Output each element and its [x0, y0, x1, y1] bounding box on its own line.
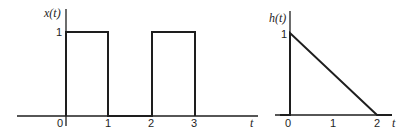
y-label-right: h(t) — [269, 11, 286, 25]
x-label-left: t — [250, 116, 254, 130]
x-tick-0-left: 0 — [57, 117, 63, 129]
x-tick-3-left: 3 — [191, 117, 197, 129]
pulse-train-signal — [66, 32, 195, 116]
x-tick-1-right: 1 — [330, 117, 336, 129]
y-tick-1-right: 1 — [281, 28, 287, 40]
y-label-left: x(t) — [43, 6, 61, 20]
x-tick-0-right: 0 — [285, 117, 291, 129]
y-tick-1-left: 1 — [56, 26, 62, 38]
x-tick-2-left: 2 — [148, 117, 154, 129]
signals-figure: x(t) 1 0 1 2 3 t h(t) 1 0 1 2 t — [0, 0, 409, 134]
x-tick-2-right: 2 — [374, 117, 380, 129]
x-label-right: t — [392, 116, 396, 130]
ramp-signal — [280, 33, 392, 115]
plot-x: x(t) 1 0 1 2 3 t — [17, 6, 258, 130]
x-tick-1-left: 1 — [105, 117, 111, 129]
plot-h: h(t) 1 0 1 2 t — [269, 11, 396, 130]
